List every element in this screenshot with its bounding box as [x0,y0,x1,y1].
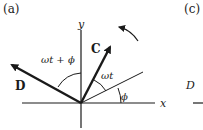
panel-c-label: (c) [184,2,200,16]
vector-c-label: C [91,42,101,56]
omega-t-plus-phi-angle-arc [58,73,81,87]
x-axis-label: x [160,97,167,110]
vector-d-label: D [15,79,25,93]
omega-t-angle-arc [94,80,106,91]
omega-t-label: ωt [101,70,114,81]
omega-t-plus-phi-label: ωt + ϕ [41,54,75,65]
rotation-arrow-icon [119,27,138,41]
y-axis-label: y [77,18,85,31]
phi-label: ϕ [121,91,128,102]
phasor-diagram: (a) (c) x y C D ϕ ωt ωt + ϕ D [0,0,203,130]
panel-a-label: (a) [3,2,20,16]
panel-c-d-label: D [185,79,195,92]
